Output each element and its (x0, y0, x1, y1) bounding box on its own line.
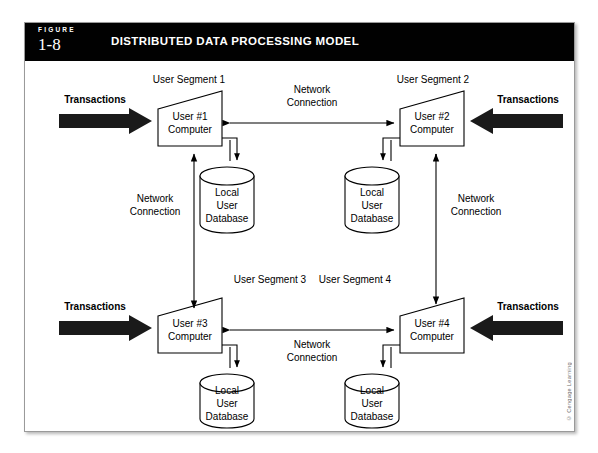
network-link-top: Network Connection (230, 84, 394, 123)
database-label-4-line1: Local (360, 385, 384, 396)
database-label-3-line3: Database (206, 411, 249, 422)
computer-label-1-line1: User #1 (172, 111, 207, 122)
figure-label-block: FIGURE 1-8 (38, 27, 108, 53)
network-link-right: Network Connection (436, 154, 501, 304)
segment-label-4: User Segment 4 (319, 274, 392, 285)
figure-number: 1-8 (38, 36, 108, 53)
figure-root: FIGURE 1-8 DISTRIBUTED DATA PROCESSING M… (0, 0, 598, 453)
transactions-arrow-1 (59, 108, 152, 134)
diagram-area: User Segment 1 User #1 Computer Local Us… (25, 61, 574, 431)
transactions-arrow-2 (470, 108, 563, 134)
database-label-1-line2: User (216, 200, 238, 211)
figure-frame: FIGURE 1-8 DISTRIBUTED DATA PROCESSING M… (24, 22, 575, 432)
segment-label-1: User Segment 1 (153, 74, 226, 85)
transactions-label-1: Transactions (64, 94, 126, 105)
transactions-label-3: Transactions (64, 301, 126, 312)
node-group-user-4: User Segment 4 User #4 Computer Local Us… (319, 274, 464, 428)
computer-label-3-line2: Computer (168, 331, 213, 342)
computer-label-4-line2: Computer (410, 331, 455, 342)
network-link-left: Network Connection (130, 154, 194, 308)
node-group-user-3: User Segment 3 User #3 Computer Local Us… (158, 274, 307, 428)
transactions-arrow-1-group: Transactions (59, 94, 152, 134)
copyright-credit: © Cengage Learning (566, 362, 572, 421)
computer-label-2-line2: Computer (410, 124, 455, 135)
computer-label-4-line1: User #4 (414, 318, 449, 329)
network-label-bottom-line1: Network (294, 339, 332, 350)
figure-header-bar: FIGURE 1-8 DISTRIBUTED DATA PROCESSING M… (25, 23, 574, 61)
network-label-bottom-line2: Connection (287, 352, 338, 363)
network-label-top-line1: Network (294, 84, 332, 95)
database-label-4-line3: Database (351, 411, 394, 422)
network-label-right-line2: Connection (451, 206, 502, 217)
transactions-label-4: Transactions (497, 301, 559, 312)
transactions-arrow-4 (470, 315, 563, 341)
network-link-bottom: Network Connection (230, 330, 394, 363)
computer-label-3-line1: User #3 (172, 318, 207, 329)
network-label-left-line2: Connection (130, 206, 181, 217)
transactions-arrow-3 (59, 315, 152, 341)
database-label-4-line2: User (361, 398, 383, 409)
network-label-right-line1: Network (458, 193, 496, 204)
segment-label-3: User Segment 3 (234, 274, 307, 285)
network-label-top-line2: Connection (287, 97, 338, 108)
transactions-arrow-2-group: Transactions (470, 94, 563, 134)
computer-label-1-line2: Computer (168, 124, 213, 135)
figure-label-word: FIGURE (38, 27, 108, 34)
database-label-3-line2: User (216, 398, 238, 409)
database-label-1-line3: Database (206, 213, 249, 224)
database-label-2-line3: Database (351, 213, 394, 224)
transactions-label-2: Transactions (497, 94, 559, 105)
database-label-1-line1: Local (215, 187, 239, 198)
ddp-diagram-svg: User Segment 1 User #1 Computer Local Us… (25, 61, 574, 431)
segment-label-2: User Segment 2 (397, 74, 470, 85)
network-label-left-line1: Network (137, 193, 175, 204)
transactions-arrow-4-group: Transactions (470, 301, 563, 341)
computer-label-2-line1: User #2 (414, 111, 449, 122)
figure-title: DISTRIBUTED DATA PROCESSING MODEL (111, 35, 359, 47)
database-label-2-line1: Local (360, 187, 384, 198)
database-label-2-line2: User (361, 200, 383, 211)
database-label-3-line1: Local (215, 385, 239, 396)
transactions-arrow-3-group: Transactions (59, 301, 152, 341)
